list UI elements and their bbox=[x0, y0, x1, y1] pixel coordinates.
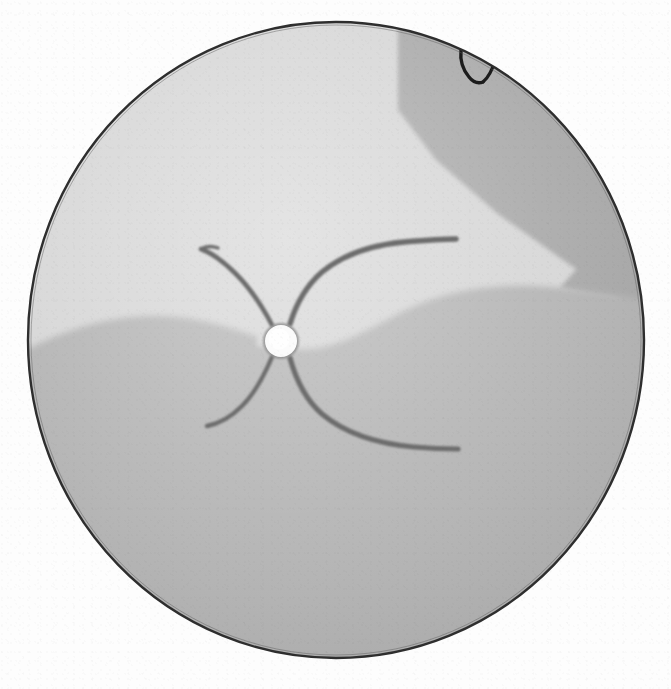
fundus-canvas bbox=[0, 0, 671, 689]
tear-mark-flick bbox=[503, 42, 509, 44]
fundus-illustration: Hand-drawn grayscale fundus chart of the… bbox=[0, 0, 671, 689]
optic-disc-cup bbox=[269, 329, 290, 350]
